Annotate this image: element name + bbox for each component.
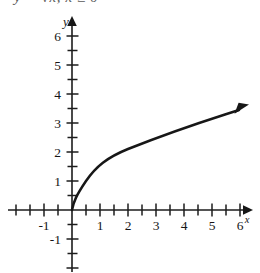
x-tick-label-2: 2 <box>125 218 132 233</box>
x-tick-label-6: 6 <box>237 218 244 233</box>
coordinate-plane-svg: -1 1 2 3 4 5 6 6 5 4 3 2 1 -1 y x <box>0 0 260 273</box>
y-tick-label-6: 6 <box>54 29 61 44</box>
y-tick-label-4: 4 <box>54 87 61 102</box>
y-tick-label--1: -1 <box>50 232 61 247</box>
y-axis-label: y <box>61 14 69 29</box>
y-tick-label-2: 2 <box>54 145 61 160</box>
y-tick-label-3: 3 <box>54 116 61 131</box>
x-tick-label-4: 4 <box>181 218 188 233</box>
graph-figure: -1 1 2 3 4 5 6 6 5 4 3 2 1 -1 y x <box>0 0 260 273</box>
x-tick-label--1: -1 <box>38 218 49 233</box>
cropped-equation-header: y = √x, x ≥ 0 <box>0 0 260 11</box>
x-axis-label: x <box>244 214 250 225</box>
y-tick-label-5: 5 <box>54 58 61 73</box>
x-tick-label-5: 5 <box>209 218 216 233</box>
x-tick-label-1: 1 <box>97 218 104 233</box>
equation-text: y = √x, x ≥ 0 <box>14 0 98 6</box>
y-tick-label-1: 1 <box>54 174 61 189</box>
x-tick-label-3: 3 <box>153 218 160 233</box>
curve-arrowhead <box>235 103 250 114</box>
sqrt-curve <box>72 110 239 210</box>
